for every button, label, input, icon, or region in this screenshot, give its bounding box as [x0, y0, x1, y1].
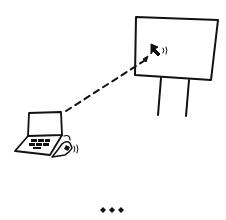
cursor-arrow-icon [151, 44, 167, 56]
screen-on-stand-icon [135, 17, 218, 116]
sketch-illustration [0, 0, 226, 220]
illustration-svg [0, 0, 226, 220]
laptop-icon [15, 112, 62, 155]
three-diamonds-icon [100, 207, 124, 213]
